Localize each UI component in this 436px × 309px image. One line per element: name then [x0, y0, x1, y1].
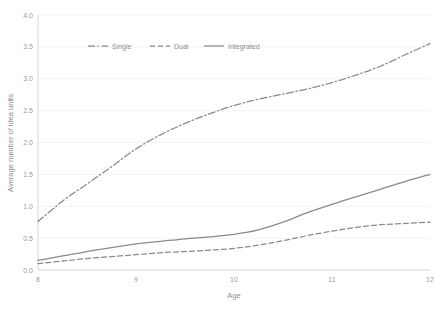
y-tick-label: 2.5 [23, 107, 33, 114]
series-line-single [38, 44, 430, 222]
x-tick-labels-group: 89101112 [36, 276, 434, 283]
series-line-integrated [38, 174, 430, 260]
x-tick-label: 8 [36, 276, 40, 283]
y-axis-title: Average number of idea units [6, 94, 15, 192]
legend: SingleDualIntegrated [88, 43, 260, 51]
line-chart: 0.00.51.01.52.02.53.03.54.0 89101112 Sin… [0, 0, 436, 309]
series-group [38, 44, 430, 264]
x-tick-label: 11 [328, 276, 335, 283]
legend-label-single: Single [112, 43, 132, 51]
y-tick-label: 1.0 [23, 203, 33, 210]
y-tick-label: 4.0 [23, 12, 33, 19]
y-tick-label: 1.5 [23, 171, 33, 178]
chart-figure: 0.00.51.01.52.02.53.03.54.0 89101112 Sin… [0, 0, 436, 309]
x-tick-label: 9 [134, 276, 138, 283]
y-tick-label: 2.0 [23, 139, 33, 146]
y-tick-label: 0.0 [23, 267, 33, 274]
y-tick-label: 3.5 [23, 43, 33, 50]
x-tick-label: 12 [426, 276, 434, 283]
legend-label-dual: Dual [174, 43, 189, 50]
y-tick-label: 0.5 [23, 235, 33, 242]
y-tick-label: 3.0 [23, 75, 33, 82]
x-axis-title: Age [227, 291, 240, 300]
legend-label-integrated: Integrated [228, 43, 260, 51]
x-tick-label: 10 [230, 276, 238, 283]
series-line-dual [38, 222, 430, 263]
y-tick-labels-group: 0.00.51.01.52.02.53.03.54.0 [23, 12, 33, 274]
